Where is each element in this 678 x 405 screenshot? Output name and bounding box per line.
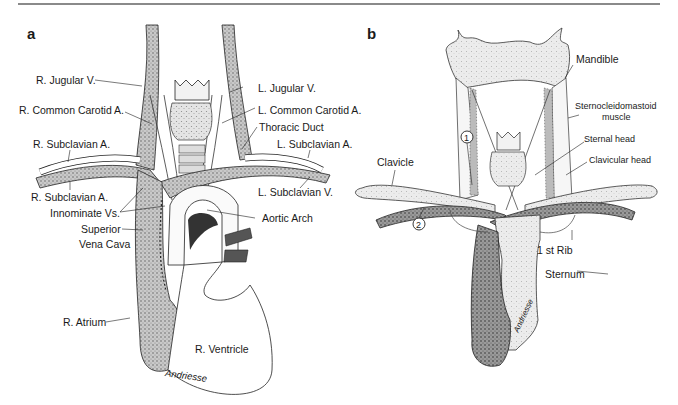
label-r-jugular-v: R. Jugular V. [36, 74, 96, 86]
label-mandible: Mandible [576, 53, 619, 65]
label-innominate-vs: Innominate Vs. [50, 207, 120, 219]
label-r-subclavian-v: R. Subclavian A. [31, 191, 108, 203]
label-clavicle: Clavicle [377, 156, 414, 168]
label-sternal-head: Sternal head [584, 133, 635, 145]
marker-1: 1 [464, 132, 469, 144]
label-clavicular-head: Clavicular head [589, 154, 651, 166]
panel-letter-b: b [367, 25, 376, 42]
label-superior: Superior [81, 223, 121, 235]
label-r-ventricle: R. Ventricle [195, 343, 249, 355]
label-r-subclavian-a: R. Subclavian A. [33, 138, 110, 150]
label-first-rib: 1 st Rib [537, 244, 573, 256]
label-vena-cava: Vena Cava [79, 238, 130, 250]
neck-anatomy-illustration [340, 0, 678, 405]
panel-letter-a: a [27, 25, 35, 42]
label-l-subclavian-v: L. Subclavian V. [258, 186, 333, 198]
label-l-jugular-v: L. Jugular V. [258, 82, 316, 94]
label-sternocleidomastoid-muscle: muscle [602, 111, 631, 123]
marker-2: 2 [416, 219, 421, 231]
label-thoracic-duct: Thoracic Duct [259, 121, 324, 133]
panel-a-venous-anatomy: a R. Jugular V. L. Jugular V. R. Common … [0, 0, 340, 405]
panel-b-neck-musculoskeletal: b Mandible Sternocleidomastoid muscle St… [340, 0, 678, 405]
label-aortic-arch: Aortic Arch [262, 212, 313, 224]
label-r-atrium: R. Atrium [63, 316, 106, 328]
label-r-common-carotid-a: R. Common Carotid A. [19, 104, 124, 116]
label-sternum: Sternum [545, 268, 585, 280]
